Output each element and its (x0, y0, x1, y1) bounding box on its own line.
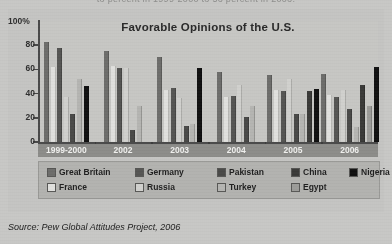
legend-item-france[interactable]: France (47, 182, 87, 192)
legend-label: Great Britain (59, 167, 111, 177)
bar-great-britain-2002 (104, 51, 109, 142)
bar-germany-1999-2000 (57, 48, 62, 142)
x-axis-label-1999-2000: 1999-2000 (38, 145, 95, 155)
bar-china-2005 (307, 91, 312, 142)
legend-item-pakistan[interactable]: Pakistan (217, 167, 264, 177)
bar-pakistan-2005 (294, 114, 299, 142)
bar-pakistan-2003 (184, 126, 189, 142)
bar-russia-1999-2000 (64, 97, 69, 142)
bar-pakistan-2002 (130, 130, 135, 142)
x-axis-label-2004: 2004 (208, 145, 265, 155)
bar-germany-2003 (171, 88, 176, 142)
legend-swatch-icon (291, 168, 300, 177)
bar-turkey-1999-2000 (77, 79, 82, 142)
legend-label: Pakistan (229, 167, 264, 177)
legend-item-germany[interactable]: Germany (135, 167, 184, 177)
legend-label: Russia (147, 182, 175, 192)
bar-nigeria-2003 (197, 68, 202, 142)
bar-france-2006 (327, 95, 332, 142)
bar-france-1999-2000 (51, 67, 56, 142)
y-tick-label-60: 60 (26, 63, 35, 73)
y-tick-label-0: 0 (30, 136, 35, 146)
bar-pakistan-2004 (244, 117, 249, 142)
bar-germany-2004 (231, 96, 236, 142)
chart-title: Favorable Opinions of the U.S. (38, 21, 378, 33)
chart-legend: Great BritainGermanyPakistanChinaNigeria… (38, 161, 380, 199)
bar-nigeria-2005 (314, 89, 319, 142)
bar-group (38, 21, 95, 142)
legend-item-great-britain[interactable]: Great Britain (47, 167, 111, 177)
bar-france-2005 (274, 90, 279, 142)
bar-france-2002 (111, 66, 116, 142)
bar-pakistan-2006 (347, 109, 352, 142)
y-tick-label-40: 40 (26, 88, 35, 98)
bar-group (265, 21, 322, 142)
legend-item-nigeria[interactable]: Nigeria (349, 167, 390, 177)
bar-germany-2006 (334, 97, 339, 142)
bar-nigeria-1999-2000 (84, 86, 89, 142)
y-tick-label-80: 80 (26, 39, 35, 49)
bar-great-britain-2004 (217, 72, 222, 142)
bar-great-britain-2006 (321, 74, 326, 142)
legend-swatch-icon (217, 168, 226, 177)
x-axis-label-2006: 2006 (321, 145, 378, 155)
bar-turkey-2003 (190, 124, 195, 142)
cut-off-body-text: to percent in 1999-2000 to 56 percent in… (0, 0, 392, 6)
legend-label: Germany (147, 167, 184, 177)
bar-russia-2002 (124, 68, 129, 142)
legend-item-russia[interactable]: Russia (135, 182, 175, 192)
legend-label: France (59, 182, 87, 192)
y-tick-label-100: 100% (8, 16, 30, 26)
y-tick-label-20: 20 (26, 112, 35, 122)
legend-label: Turkey (229, 182, 256, 192)
legend-label: Egypt (303, 182, 327, 192)
bar-great-britain-1999-2000 (44, 42, 49, 142)
legend-swatch-icon (349, 168, 358, 177)
bar-france-2004 (224, 97, 229, 142)
legend-label: Nigeria (361, 167, 390, 177)
x-axis-label-2005: 2005 (265, 145, 322, 155)
legend-item-turkey[interactable]: Turkey (217, 182, 256, 192)
bar-russia-2004 (237, 85, 242, 142)
bar-france-2003 (164, 90, 169, 142)
bar-group (151, 21, 208, 142)
bar-russia-2003 (177, 98, 182, 142)
legend-swatch-icon (217, 183, 226, 192)
legend-swatch-icon (47, 183, 56, 192)
bar-egypt-2006 (367, 106, 372, 142)
legend-item-egypt[interactable]: Egypt (291, 182, 327, 192)
bar-great-britain-2005 (267, 75, 272, 142)
bar-group (208, 21, 265, 142)
legend-swatch-icon (47, 168, 56, 177)
legend-swatch-icon (135, 168, 144, 177)
bar-turkey-2005 (300, 114, 305, 142)
bar-china-2006 (360, 85, 365, 142)
bar-russia-2005 (287, 79, 292, 142)
chart-figure: Favorable Opinions of the U.S. 100% 0204… (8, 9, 384, 212)
x-axis-label-2003: 2003 (151, 145, 208, 155)
legend-item-china[interactable]: China (291, 167, 327, 177)
bar-nigeria-2006 (374, 67, 379, 142)
legend-swatch-icon (291, 183, 300, 192)
legend-swatch-icon (135, 183, 144, 192)
bar-turkey-2004 (250, 106, 255, 142)
bar-germany-2002 (117, 68, 122, 142)
bar-turkey-2006 (354, 127, 359, 142)
source-caption: Source: Pew Global Attitudes Project, 20… (8, 222, 180, 232)
bar-germany-2005 (281, 91, 286, 142)
x-axis-label-2002: 2002 (95, 145, 152, 155)
bar-group (321, 21, 378, 142)
bar-russia-2006 (341, 90, 346, 142)
bar-group (95, 21, 152, 142)
legend-label: China (303, 167, 327, 177)
bar-great-britain-2003 (157, 57, 162, 142)
bar-pakistan-1999-2000 (70, 114, 75, 142)
bar-turkey-2002 (137, 106, 142, 142)
plot-area: Favorable Opinions of the U.S. 100% 0204… (8, 9, 384, 154)
